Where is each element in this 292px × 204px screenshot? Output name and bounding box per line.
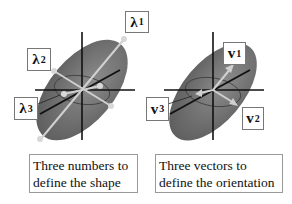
lambda2-subscript: 2	[41, 55, 46, 65]
lambda2-endpoint-b-icon	[108, 103, 114, 109]
orientation-caption-line2: define the orientation	[159, 174, 282, 191]
shape-caption-line1: Three numbers to	[33, 157, 137, 174]
lambda1-symbol: λ	[130, 15, 137, 30]
v2-symbol: v	[246, 111, 254, 126]
lambda2-label: λ2	[27, 48, 51, 71]
lambda3-subscript: 3	[28, 104, 33, 114]
v2-subscript: 2	[255, 114, 260, 124]
v1-symbol: v	[228, 46, 236, 61]
v1-subscript: 1	[236, 49, 241, 59]
lambda2-symbol: λ	[32, 52, 39, 67]
orientation-panel	[153, 28, 274, 155]
orientation-caption-line1: Three vectors to	[159, 157, 282, 174]
lambda1-endpoint-icon	[121, 36, 127, 42]
v2-label: v2	[242, 107, 264, 130]
lambda2-endpoint-icon	[51, 68, 57, 74]
orientation-caption: Three vectors to define the orientation	[155, 154, 283, 193]
lambda1-subscript: 1	[139, 17, 144, 27]
shape-caption-line2: define the shape	[33, 174, 137, 191]
v1-label: v1	[223, 42, 246, 65]
lambda3-symbol: λ	[19, 101, 26, 116]
shape-panel	[19, 23, 145, 156]
v3-subscript: 3	[159, 104, 164, 114]
lambda1-endpoint-b-icon	[37, 136, 43, 142]
lambda3-endpoint-icon	[61, 91, 67, 97]
shape-caption: Three numbers to define the shape	[29, 154, 138, 193]
lambda1-label: λ1	[125, 11, 149, 33]
lambda3-endpoint-b-icon	[97, 83, 103, 89]
v3-symbol: v	[151, 102, 159, 117]
lambda3-label: λ3	[14, 97, 38, 120]
v3-label: v3	[146, 97, 169, 121]
